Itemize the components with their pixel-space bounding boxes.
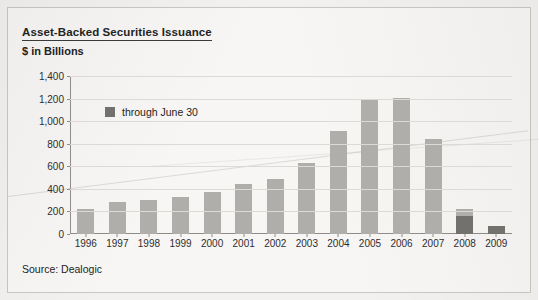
- bar-2002[interactable]: [267, 179, 284, 234]
- y-axis-tick: [67, 189, 70, 190]
- bar-segment-full-year: [330, 131, 347, 234]
- y-axis-tick: [67, 99, 70, 100]
- y-axis-tick: [67, 234, 70, 235]
- x-axis-label-2002: 2002: [259, 238, 291, 249]
- y-axis-tick-label: 200: [47, 206, 64, 217]
- bar-2003[interactable]: [298, 163, 315, 234]
- x-axis-label-2005: 2005: [354, 238, 386, 249]
- bar-slot-2003: [291, 76, 323, 234]
- bar-segment-through-june: [488, 226, 505, 234]
- bar-slot-1999: [165, 76, 197, 234]
- y-axis-tick: [67, 211, 70, 212]
- x-axis-tick: [306, 234, 307, 237]
- y-axis-tick-label: 800: [47, 138, 64, 149]
- gridline: [70, 99, 512, 100]
- x-axis-tick: [464, 234, 465, 237]
- bar-slot-2005: [354, 76, 386, 234]
- bar-segment-full-year: [235, 184, 252, 234]
- bar-slot-2001: [228, 76, 260, 234]
- x-axis-label-2000: 2000: [196, 238, 228, 249]
- y-axis-tick-label: 0: [58, 229, 64, 240]
- x-axis-tick: [243, 234, 244, 237]
- x-axis-tick: [148, 234, 149, 237]
- bar-slot-2008: [449, 76, 481, 234]
- x-axis-tick: [369, 234, 370, 237]
- x-axis-label-2004: 2004: [323, 238, 355, 249]
- bar-slot-2006: [386, 76, 418, 234]
- bar-segment-full-year: [298, 163, 315, 234]
- y-axis-tick-label: 1,400: [39, 71, 64, 82]
- title-block: Asset-Backed Securities Issuance $ in Bi…: [22, 22, 212, 58]
- y-axis-tick-label: 400: [47, 183, 64, 194]
- y-axis-tick: [67, 76, 70, 77]
- bar-segment-full-year: [109, 202, 126, 234]
- bar-slot-1997: [102, 76, 134, 234]
- y-axis-tick: [67, 166, 70, 167]
- y-axis-tick-label: 1,000: [39, 116, 64, 127]
- bar-slot-2002: [259, 76, 291, 234]
- y-axis-tick-label: 600: [47, 161, 64, 172]
- chart-title: Asset-Backed Securities Issuance: [22, 26, 212, 41]
- bar-slot-2004: [323, 76, 355, 234]
- bar-slot-1996: [70, 76, 102, 234]
- x-axis-label-1998: 1998: [133, 238, 165, 249]
- x-axis-tick: [401, 234, 402, 237]
- y-axis-tick-label: 1,200: [39, 93, 64, 104]
- bar-segment-full-year: [267, 179, 284, 234]
- gridline: [70, 189, 512, 190]
- legend-swatch-through-june: [105, 107, 115, 117]
- bar-2009[interactable]: [488, 226, 505, 234]
- chart-legend: through June 30: [105, 106, 198, 118]
- gridline: [70, 144, 512, 145]
- bar-slot-1998: [133, 76, 165, 234]
- bar-2007[interactable]: [425, 139, 442, 234]
- gridline: [70, 166, 512, 167]
- x-axis-tick: [85, 234, 86, 237]
- x-axis-label-1999: 1999: [165, 238, 197, 249]
- bar-2001[interactable]: [235, 184, 252, 234]
- bar-2000[interactable]: [204, 192, 221, 234]
- x-axis-tick: [496, 234, 497, 237]
- x-axis-tick: [212, 234, 213, 237]
- bar-1997[interactable]: [109, 202, 126, 234]
- gridline: [70, 121, 512, 122]
- bar-group: [70, 76, 512, 234]
- legend-label-through-june: through June 30: [122, 106, 198, 118]
- plot-area: 02004006008001,0001,2001,400: [70, 76, 512, 234]
- x-axis-label-2001: 2001: [228, 238, 260, 249]
- x-axis-label-2008: 2008: [449, 238, 481, 249]
- x-axis-tick: [117, 234, 118, 237]
- bar-slot-2007: [417, 76, 449, 234]
- x-axis-label-1997: 1997: [102, 238, 134, 249]
- gridline: [70, 76, 512, 77]
- x-axis-tick: [433, 234, 434, 237]
- gridline: [70, 211, 512, 212]
- x-axis-label-2009: 2009: [481, 238, 513, 249]
- bar-segment-full-year: [172, 197, 189, 234]
- source-note: Source: Dealogic: [22, 263, 102, 275]
- x-axis-tick: [180, 234, 181, 237]
- bar-1999[interactable]: [172, 197, 189, 234]
- bar-segment-full-year: [140, 200, 157, 234]
- x-axis-tick: [338, 234, 339, 237]
- bar-1998[interactable]: [140, 200, 157, 234]
- x-axis-label-1996: 1996: [70, 238, 102, 249]
- x-axis-tick: [275, 234, 276, 237]
- bar-slot-2009: [481, 76, 513, 234]
- y-axis-tick: [67, 144, 70, 145]
- bar-slot-2000: [196, 76, 228, 234]
- bar-segment-through-june: [456, 216, 473, 234]
- bar-segment-full-year: [425, 139, 442, 234]
- chart-subtitle: $ in Billions: [22, 45, 212, 58]
- x-axis-label-2003: 2003: [291, 238, 323, 249]
- bar-segment-full-year: [204, 192, 221, 234]
- x-axis-label-2006: 2006: [386, 238, 418, 249]
- x-axis-labels: 1996199719981999200020012002200320042005…: [70, 238, 512, 249]
- x-axis-label-2007: 2007: [417, 238, 449, 249]
- y-axis-tick: [67, 121, 70, 122]
- bar-2004[interactable]: [330, 131, 347, 234]
